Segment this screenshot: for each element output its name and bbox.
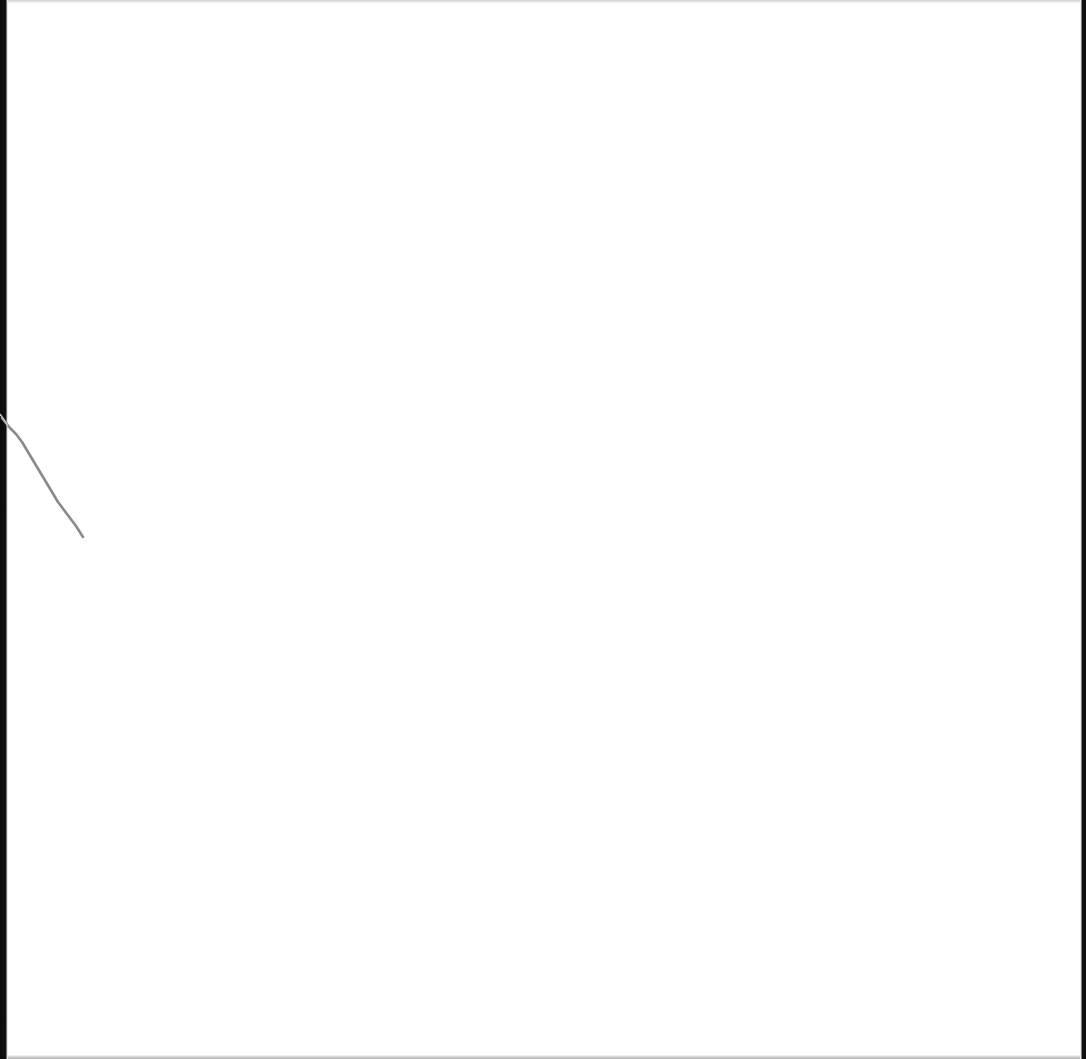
top-edge-shadow (0, 0, 1086, 3)
left-dark-border (0, 0, 8, 1059)
bottom-edge-shadow (0, 1055, 1086, 1059)
right-dark-border (1080, 0, 1086, 1059)
blank-page (8, 3, 1080, 1055)
